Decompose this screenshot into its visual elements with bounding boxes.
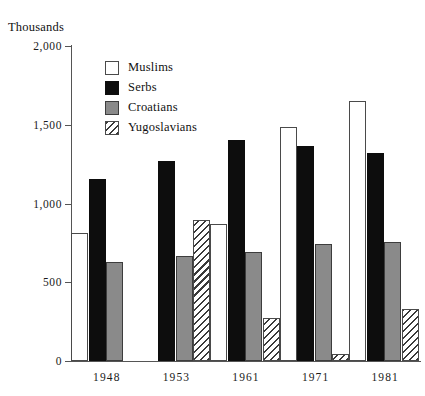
legend-label-yugoslavians: Yugoslavians [128,120,197,135]
bar-yugoslavians-1981 [402,309,419,361]
y-axis-tick-label: 1,000 [0,198,62,210]
y-axis-tick-label: 1,500 [0,119,62,131]
bar-serbs-1948 [89,179,106,361]
legend-label-muslims: Muslims [128,60,173,75]
y-axis-tick-mark [65,46,71,47]
bar-serbs-1971 [297,146,314,361]
bar-group-1971 [281,46,351,361]
legend-swatch-serbs-icon [105,81,119,95]
legend-swatch-croatians-icon [105,101,119,115]
y-axis-unit-caption: Thousands [8,20,64,35]
bar-yugoslavians-1971 [332,354,349,361]
bar-serbs-1953 [158,161,175,361]
legend-item-croatians: Croatians [105,98,235,117]
y-axis-tick-mark [65,204,71,205]
legend-item-serbs: Serbs [105,78,235,97]
x-axis-label-1981: 1981 [340,371,425,383]
legend-swatch-muslims-icon [105,61,119,75]
bar-croatians-1981 [384,242,401,361]
y-axis-tick-label: 2,000 [0,40,62,52]
bar-croatians-1971 [315,244,332,361]
population-bar-chart: Thousands 05001,0001,5002,000 1948195319… [0,0,425,396]
bar-muslims-1971 [280,127,297,361]
bar-yugoslavians-1961 [263,318,280,361]
legend-item-muslims: Muslims [105,58,235,77]
legend-swatch-yugoslavians-icon [105,121,119,135]
x-axis-line [71,361,421,362]
chart-legend: MuslimsSerbsCroatiansYugoslavians [105,58,235,138]
bar-serbs-1961 [228,140,245,361]
y-axis-tick-mark [65,125,71,126]
legend-item-yugoslavians: Yugoslavians [105,118,235,137]
bar-croatians-1953 [176,256,193,361]
bar-serbs-1981 [367,153,384,361]
bar-muslims-1981 [349,101,366,361]
bar-croatians-1948 [106,262,123,361]
bar-group-1981 [350,46,420,361]
bar-yugoslavians-1953 [193,220,210,361]
bar-croatians-1961 [245,252,262,361]
y-axis-tick-mark [65,361,71,362]
bar-muslims-1961 [210,224,227,361]
legend-label-serbs: Serbs [128,80,157,95]
legend-label-croatians: Croatians [128,100,178,115]
bar-muslims-1948 [71,233,88,361]
y-axis-tick-label: 0 [0,355,62,367]
y-axis-tick-label: 500 [0,276,62,288]
